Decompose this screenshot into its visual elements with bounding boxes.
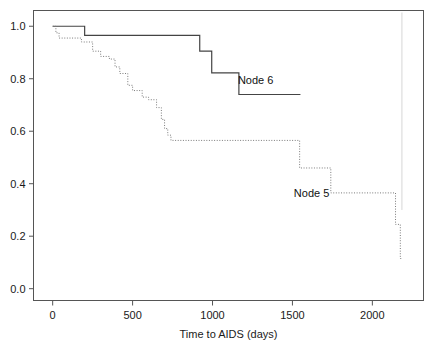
plot-frame: [34, 11, 424, 301]
x-axis: 0500100015002000: [50, 301, 385, 321]
y-tick-label: 0.6: [10, 125, 25, 137]
x-tick-label: 500: [123, 309, 141, 321]
series-annotation-1: Node 6: [238, 74, 273, 86]
survival-plot: 0.00.20.40.60.81.00500100015002000Time t…: [0, 0, 438, 343]
y-tick-label: 0.8: [10, 73, 25, 85]
chart-page: 0.00.20.40.60.81.00500100015002000Time t…: [0, 0, 438, 343]
x-tick-label: 1000: [200, 309, 224, 321]
x-axis-title: Time to AIDS (days): [179, 328, 277, 340]
x-tick-label: 1500: [280, 309, 304, 321]
y-axis: 0.00.20.40.60.81.0: [10, 20, 33, 294]
y-tick-label: 0.4: [10, 178, 25, 190]
series-annotation-2: Node 5: [294, 187, 329, 199]
y-tick-label: 1.0: [10, 20, 25, 32]
x-tick-label: 2000: [360, 309, 384, 321]
series-curve-2: [53, 26, 402, 258]
x-tick-label: 0: [50, 309, 56, 321]
y-tick-label: 0.0: [10, 283, 25, 295]
y-tick-label: 0.2: [10, 230, 25, 242]
